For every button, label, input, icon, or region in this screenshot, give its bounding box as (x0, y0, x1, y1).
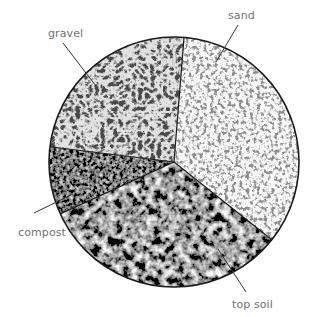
slice-label-sand: sand (228, 9, 255, 22)
slice-label-gravel: gravel (48, 27, 83, 40)
soil-composition-pie-chart (0, 0, 311, 317)
slice-label-top-soil: top soil (232, 298, 273, 311)
slice-label-compost: compost (18, 226, 66, 239)
